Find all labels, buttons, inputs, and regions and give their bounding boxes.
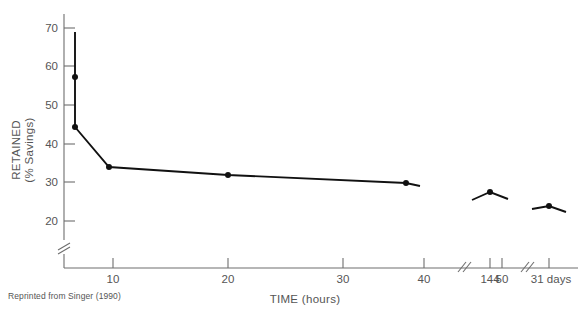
source-caption: Reprinted from Singer (1990)	[8, 291, 121, 301]
x-axis-break-icon-1	[458, 262, 471, 272]
y-tick-label-40: 40	[45, 138, 58, 150]
x-tick-label-20: 20	[222, 273, 235, 285]
x-tick-label-31days: 31 days	[531, 273, 572, 285]
data-point-144h	[487, 189, 493, 195]
y-axis-tick-labels: 70 60 50 40 30 20	[45, 22, 58, 227]
x-axis-ticks	[113, 258, 502, 268]
y-tick-label-70: 70	[45, 22, 58, 34]
x-tick-label-144: 144	[480, 273, 500, 285]
x-axis-break-icon-2	[521, 262, 534, 272]
data-point-24-5h	[225, 172, 231, 178]
y-axis-title-line1: RETAINED	[10, 120, 22, 180]
data-point-31days	[546, 203, 552, 209]
data-point-48-5h	[403, 180, 409, 186]
chart-figure: 70 60 50 40 30 20 10 20 30 40 50 RETAINE…	[0, 0, 588, 317]
x-axis-tick-labels: 10 20 30 40 50	[107, 273, 509, 285]
y-axis-title-line2: (% Savings)	[23, 117, 35, 182]
data-point-t1-mean	[72, 74, 78, 80]
y-tick-label-50: 50	[45, 99, 58, 111]
y-axis-title: RETAINED (% Savings)	[10, 117, 35, 182]
x-axis-title: TIME (hours)	[270, 293, 341, 305]
retention-curve-plot: 70 60 50 40 30 20 10 20 30 40 50 RETAINE…	[0, 0, 588, 317]
y-tick-label-60: 60	[45, 60, 58, 72]
x-tick-label-10: 10	[107, 273, 120, 285]
x-tick-label-30: 30	[337, 273, 350, 285]
y-tick-label-20: 20	[45, 215, 58, 227]
data-line-main	[75, 127, 420, 186]
y-axis-break-icon	[58, 243, 70, 254]
data-point-9h	[106, 164, 112, 170]
y-tick-label-30: 30	[45, 176, 58, 188]
x-tick-label-40: 40	[418, 273, 431, 285]
data-point-1-3h	[72, 124, 78, 130]
